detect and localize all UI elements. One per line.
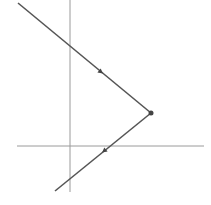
vertex-point [149, 111, 154, 116]
ray-reflection-diagram [0, 0, 211, 205]
background [0, 0, 211, 205]
